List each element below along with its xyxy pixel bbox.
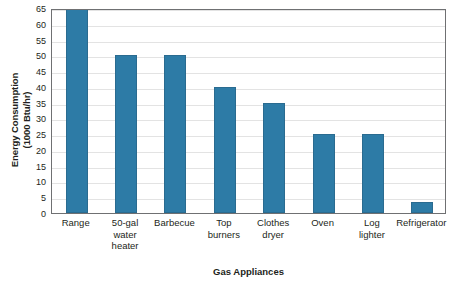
y-axis-tick-label: 30 xyxy=(22,115,46,124)
bar xyxy=(164,55,186,213)
y-axis-tick-label: 15 xyxy=(22,162,46,171)
x-axis-tick-label: Oven xyxy=(295,217,350,229)
bar xyxy=(115,55,137,213)
x-axis-tick-label-line: Top xyxy=(196,217,251,229)
y-axis-tick-label: 0 xyxy=(22,210,46,219)
x-axis-tick-label: Range xyxy=(48,217,103,229)
bar xyxy=(263,103,285,213)
x-axis-tick-label-line: Clothes xyxy=(246,217,301,229)
plot-area xyxy=(51,9,446,214)
bars-layer xyxy=(52,10,445,213)
bar xyxy=(66,9,88,213)
x-axis-tick-label: Topburners xyxy=(196,217,251,240)
bar xyxy=(214,87,236,213)
y-axis-tick-label: 45 xyxy=(22,68,46,77)
x-axis-tick-label-line: Oven xyxy=(295,217,350,229)
x-axis-tick-label: Barbecue xyxy=(147,217,202,229)
y-axis-title-line-1: Energy Consumption xyxy=(9,35,21,205)
x-axis-tick-label-line: Refrigerator xyxy=(394,217,449,229)
y-axis-tick-label: 65 xyxy=(22,5,46,14)
bar xyxy=(362,134,384,213)
y-axis-tick-label: 55 xyxy=(22,36,46,45)
x-axis-title: Gas Appliances xyxy=(51,266,446,277)
x-axis-tick-label-line: Log xyxy=(344,217,399,229)
x-axis-tick-label: Refrigerator xyxy=(394,217,449,229)
x-axis-tick-label: Loglighter xyxy=(344,217,399,240)
x-axis-tick-label-line: lighter xyxy=(344,229,399,241)
x-axis-tick-label-line: heater xyxy=(97,240,152,252)
x-axis-tick-label: 50-galwaterheater xyxy=(97,217,152,252)
x-axis-tick-labels: Range50-galwaterheaterBarbecueTopburners… xyxy=(51,217,446,263)
y-axis-tick-label: 35 xyxy=(22,99,46,108)
y-axis-tick-label: 5 xyxy=(22,194,46,203)
y-axis-tick-label: 40 xyxy=(22,83,46,92)
x-axis-tick-label: Clothesdryer xyxy=(246,217,301,240)
y-axis-tick-label: 60 xyxy=(22,20,46,29)
bar xyxy=(313,134,335,213)
bar-chart-figure: Energy Consumption (1000 Btu/hr) 0510152… xyxy=(0,0,453,286)
x-axis-tick-label-line: 50-gal xyxy=(97,217,152,229)
bar xyxy=(411,202,433,213)
y-axis-tick-label: 25 xyxy=(22,131,46,140)
x-axis-tick-label-line: burners xyxy=(196,229,251,241)
y-axis-tick-labels: 05101520253035404550556065 xyxy=(22,9,46,214)
x-axis-tick-label-line: Range xyxy=(48,217,103,229)
y-axis-tick-label: 20 xyxy=(22,146,46,155)
y-axis-tick-label: 10 xyxy=(22,178,46,187)
x-axis-tick-label-line: Barbecue xyxy=(147,217,202,229)
x-axis-tick-label-line: dryer xyxy=(246,229,301,241)
x-axis-tick-label-line: water xyxy=(97,229,152,241)
y-axis-tick-label: 50 xyxy=(22,52,46,61)
